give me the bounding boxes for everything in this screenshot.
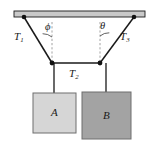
label-angle-theta: θ [100,21,105,32]
angle-arc-phi [43,34,52,37]
left-anchor-point [22,15,27,20]
physics-diagram-figure: T1 T2 T3 ϕ θ A B [0,0,156,147]
label-tension-T2: T2 [69,68,79,79]
label-tension-T3: T3 [120,31,130,42]
angle-arc-theta [100,33,109,36]
left-junction-point [50,61,55,66]
label-block-b: B [103,110,110,121]
right-anchor-point [132,15,137,20]
ceiling-bar [14,11,145,17]
right-junction-point [98,61,103,66]
label-angle-phi: ϕ [45,22,50,33]
label-block-a: A [51,107,58,118]
label-tension-T1: T1 [14,31,24,42]
